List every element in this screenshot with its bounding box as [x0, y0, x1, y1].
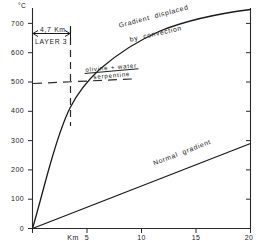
y-axis-unit-label: °C	[18, 2, 26, 9]
reaction-boundary-dashed	[33, 79, 132, 84]
layer-thickness-label: 4,7 Km	[40, 26, 66, 33]
y-tick-label: 200	[2, 166, 24, 173]
y-tick-marks	[28, 23, 251, 228]
layer-name-label: LAYER 3	[35, 38, 67, 45]
y-tick-label: 400	[2, 107, 24, 114]
figure: 700 600 500 400 300 200 100 0 °C Km 5 10…	[0, 0, 260, 249]
y-tick-label: 300	[2, 137, 24, 144]
x-tick-marks	[33, 229, 251, 234]
series-normal-gradient-line	[33, 144, 251, 229]
y-tick-label: 600	[2, 49, 24, 56]
x-tick-label: 10	[131, 234, 153, 241]
x-tick-label: 15	[185, 234, 207, 241]
y-tick-label: 500	[2, 78, 24, 85]
y-tick-label: 700	[2, 20, 24, 27]
y-tick-label: 100	[2, 195, 24, 202]
x-tick-label: 5	[76, 234, 98, 241]
y-tick-label: 0	[2, 225, 24, 232]
x-tick-label: 20	[238, 234, 260, 241]
